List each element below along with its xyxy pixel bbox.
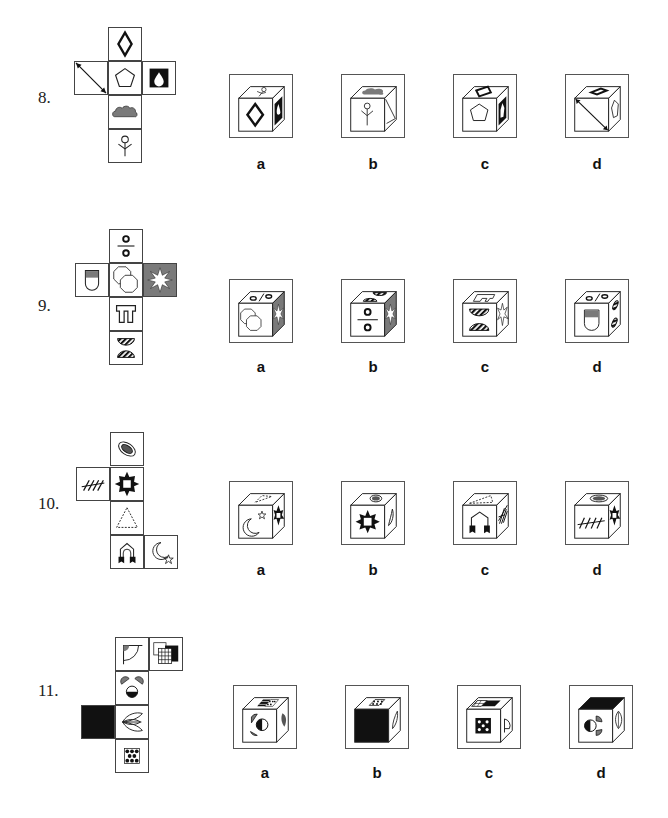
question-number-8: 8. [38,88,51,108]
option-label-11c: c [457,764,521,781]
option-label-11a: a [233,764,297,781]
water-drop-icon [142,61,176,95]
stick-figure-icon [108,129,142,163]
dashed-triangle-icon [110,501,144,535]
hatch-marks-icon [76,467,110,501]
diamond-outline-icon [108,27,142,61]
option-label-8a: a [229,155,293,172]
pi-gate-icon [109,297,143,331]
black-square-icon [81,705,115,739]
option-8d[interactable] [565,74,629,138]
option-11b[interactable] [345,685,409,749]
leaf-wings-icon [115,705,149,739]
option-9c[interactable] [453,279,517,343]
division-circles-icon [109,229,143,263]
option-9d[interactable] [565,279,629,343]
moon-star-icon [144,535,178,569]
half-gray-shield-icon [75,263,109,297]
option-label-9a: a [229,358,293,375]
pentagon-icon [108,61,142,95]
option-8a[interactable] [229,74,293,138]
option-label-8c: c [453,155,517,172]
white-star-icon [143,263,177,297]
striped-semicircles-icon [109,331,143,365]
question-number-10: 10. [38,494,59,514]
option-10d[interactable] [565,481,629,545]
overlapping-octagons-icon [109,263,143,297]
option-label-11d: d [569,764,633,781]
question-number-9: 9. [38,296,51,316]
option-label-10c: c [453,561,517,578]
option-label-8d: d [565,155,629,172]
option-label-9c: c [453,358,517,375]
cloud-icon [108,95,142,129]
double-arrow-icon [74,61,108,95]
dotted-square-icon [115,739,149,773]
grid-squares-icon [149,637,183,671]
option-label-10a: a [229,561,293,578]
option-11a[interactable] [233,685,297,749]
arch-arrows-icon [110,535,144,569]
option-10a[interactable] [229,481,293,545]
option-8c[interactable] [453,74,517,138]
option-11c[interactable] [457,685,521,749]
question-number-11: 11. [38,681,59,701]
option-label-10b: b [341,561,405,578]
option-8b[interactable] [341,74,405,138]
option-label-9d: d [565,358,629,375]
option-label-9b: b [341,358,405,375]
option-10b[interactable] [341,481,405,545]
black-sun-icon [110,467,144,501]
ringed-ellipse-icon [110,432,144,466]
option-label-11b: b [345,764,409,781]
face-semicircles-icon [115,671,149,705]
option-9a[interactable] [229,279,293,343]
option-label-10d: d [565,561,629,578]
option-10c[interactable] [453,481,517,545]
option-label-8b: b [341,155,405,172]
quarter-circle-flag-icon [115,637,149,671]
option-11d[interactable] [569,685,633,749]
option-9b[interactable] [341,279,405,343]
